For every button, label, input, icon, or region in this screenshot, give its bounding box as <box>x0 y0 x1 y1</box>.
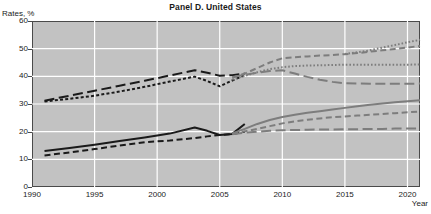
x-tick-label-2005: 2005 <box>200 190 240 199</box>
x-tick-label-2020: 2020 <box>387 190 427 199</box>
x-tick-label-2015: 2015 <box>325 190 365 199</box>
series-line-upper-long-dash-black <box>45 70 245 100</box>
x-axis-title: Year <box>412 199 428 208</box>
series-line-upper-gray-medium-dash-rising <box>232 46 420 78</box>
y-tick-label-10: 10 <box>0 154 28 163</box>
y-tick-label-40: 40 <box>0 71 28 80</box>
plot-area <box>32 21 420 187</box>
series-line-lower-solid-black <box>45 124 245 151</box>
chart-title: Panel D. United States <box>0 2 431 12</box>
x-tick-label-1990: 1990 <box>12 190 52 199</box>
y-tick-label-30: 30 <box>0 99 28 108</box>
y-tick-label-20: 20 <box>0 127 28 136</box>
plot-lines <box>32 21 420 187</box>
series-line-upper-dotted-black <box>45 75 245 101</box>
y-tick-label-60: 60 <box>0 16 28 25</box>
chart-figure: Panel D. United States Rates, % Year 010… <box>0 0 431 214</box>
x-tick-label-1995: 1995 <box>75 190 115 199</box>
x-tick-label-2010: 2010 <box>262 190 302 199</box>
series-line-lower-dashed-black <box>45 132 245 156</box>
x-tick-label-2000: 2000 <box>137 190 177 199</box>
y-tick-mark-0 <box>28 187 32 188</box>
y-tick-label-50: 50 <box>0 44 28 53</box>
